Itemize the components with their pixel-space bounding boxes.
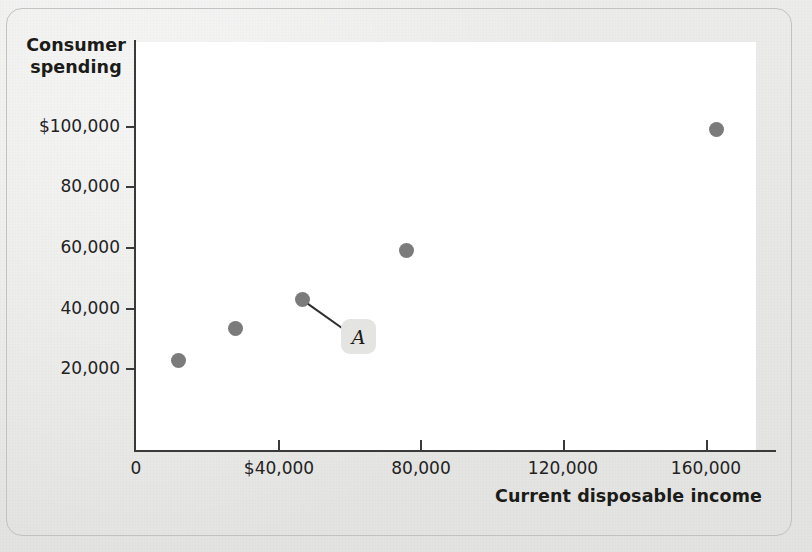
y-tick-80000 — [126, 186, 135, 188]
x-tick-label-0: 0 — [96, 458, 176, 478]
annotation-label-a: A — [341, 319, 376, 354]
x-tick-40000 — [278, 440, 280, 451]
y-axis-line — [134, 40, 136, 452]
y-tick-20000 — [126, 368, 135, 370]
y-tick-40000 — [126, 308, 135, 310]
x-tick-label-80000: 80,000 — [361, 458, 481, 478]
y-tick-label-20000: 20,000 — [61, 358, 120, 378]
data-point — [171, 353, 186, 368]
y-tick-100000 — [126, 126, 135, 128]
data-point — [399, 243, 414, 258]
y-tick-60000 — [126, 247, 135, 249]
x-axis-line — [134, 450, 776, 452]
y-tick-label-80000: 80,000 — [61, 176, 120, 196]
y-tick-label-100000: $100,000 — [39, 116, 120, 136]
x-tick-120000 — [563, 440, 565, 451]
y-axis-title: Consumer spending — [22, 34, 130, 78]
x-tick-160000 — [706, 440, 708, 451]
data-point — [709, 122, 724, 137]
x-tick-80000 — [420, 440, 422, 451]
x-tick-label-120000: 120,000 — [503, 458, 623, 478]
y-tick-label-60000: 60,000 — [61, 237, 120, 257]
figure-container: $100,000 80,000 60,000 40,000 20,000 0 $… — [0, 0, 812, 552]
x-axis-title: Current disposable income — [495, 486, 762, 506]
data-point — [228, 321, 243, 336]
y-tick-label-40000: 40,000 — [61, 298, 120, 318]
x-tick-label-40000: $40,000 — [219, 458, 339, 478]
x-tick-label-160000: 160,000 — [646, 458, 766, 478]
plot-area — [136, 42, 756, 450]
